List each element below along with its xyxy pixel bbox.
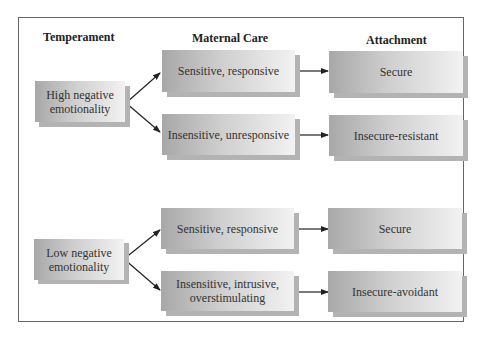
care-box-sensitive-high: Sensitive, responsive: [162, 50, 295, 92]
attachment-box-resistant: Insecure-resistant: [329, 115, 463, 156]
attachment-label: Secure: [379, 222, 412, 236]
attachment-box-secure-high: Secure: [329, 51, 463, 93]
attachment-box-secure-low: Secure: [328, 208, 462, 249]
care-label: Insensitive, unresponsive: [168, 128, 289, 142]
care-box-insensitive-high: Insensitive, unresponsive: [162, 114, 295, 155]
care-label: Sensitive, responsive: [177, 222, 278, 236]
care-label: Sensitive, responsive: [178, 64, 279, 78]
temperament-box-high: High negativeemotionality: [35, 81, 125, 122]
temperament-box-low: Low negativeemotionality: [34, 239, 124, 280]
care-label-line1: Insensitive, intrusive,: [176, 277, 279, 291]
attachment-label: Insecure-resistant: [354, 129, 439, 143]
care-box-sensitive-low: Sensitive, responsive: [161, 208, 294, 249]
attachment-label: Secure: [380, 65, 413, 79]
temperament-label-line2: emotionality: [50, 102, 111, 116]
temperament-label-line1: Low negative: [46, 246, 112, 260]
temperament-label-line1: High negative: [46, 88, 114, 102]
attachment-label: Insecure-avoidant: [352, 285, 438, 299]
care-box-insensitive-low: Insensitive, intrusive,overstimulating: [161, 271, 294, 311]
care-label-line2: overstimulating: [190, 291, 265, 305]
temperament-label-line2: emotionality: [49, 260, 110, 274]
attachment-box-avoidant: Insecure-avoidant: [328, 271, 462, 312]
